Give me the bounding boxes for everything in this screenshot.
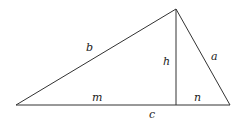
triangle-diagram: b a h m n c [0, 0, 242, 125]
side-a-line [176, 9, 230, 105]
label-h: h [163, 55, 170, 68]
label-b: b [86, 41, 93, 54]
label-a: a [211, 50, 218, 63]
label-m: m [92, 91, 102, 104]
label-n: n [194, 91, 201, 104]
label-c: c [149, 108, 155, 121]
